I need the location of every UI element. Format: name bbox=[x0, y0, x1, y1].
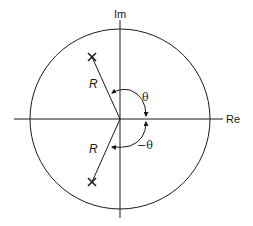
angle-label-minus-theta: −θ bbox=[137, 139, 153, 152]
real-axis-label: Re bbox=[226, 113, 240, 125]
pole-marker-lower-icon bbox=[88, 178, 96, 186]
angle-label-theta: θ bbox=[142, 91, 149, 104]
radius-label-upper: R bbox=[89, 77, 98, 91]
imaginary-axis-label: Im bbox=[114, 8, 126, 20]
radius-label-lower: R bbox=[89, 142, 98, 156]
pole-marker-upper-icon bbox=[88, 53, 96, 61]
pole-zero-diagram: Im Re R R θ −θ bbox=[0, 0, 253, 226]
